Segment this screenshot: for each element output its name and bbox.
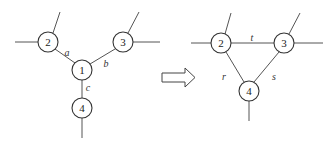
node-2-left: 2	[38, 32, 58, 52]
svg-text:3: 3	[281, 37, 287, 49]
stub-node2-up	[225, 13, 231, 34]
svg-text:4: 4	[79, 102, 85, 114]
node-1: 1	[72, 60, 92, 80]
svg-text:2: 2	[45, 36, 51, 48]
node-3-right: 3	[274, 33, 294, 53]
edge-label-a: a	[65, 47, 70, 58]
svg-text:2: 2	[218, 37, 224, 49]
edge-label-b: b	[104, 58, 109, 69]
stub-node3-up	[128, 12, 139, 33]
edge-b	[90, 49, 115, 64]
star-to-mesh-diagram: 2 1 3 4 a b c	[0, 0, 336, 144]
edge-label-s: s	[272, 71, 276, 82]
node-4-left: 4	[72, 98, 92, 118]
transform-arrow-icon	[162, 68, 195, 87]
star-network: 2 1 3 4 a b c	[15, 12, 160, 138]
stub-node2-up	[53, 12, 60, 33]
edge-label-t: t	[251, 32, 254, 43]
node-4-right: 4	[239, 81, 259, 101]
edge-label-c: c	[86, 82, 91, 93]
edge-r	[226, 52, 244, 82]
svg-text:3: 3	[120, 36, 126, 48]
edge-label-r: r	[222, 71, 226, 82]
node-2-right: 2	[211, 33, 231, 53]
mesh-network: 2 3 4 t r s	[191, 13, 323, 121]
svg-text:1: 1	[79, 64, 85, 76]
node-3-left: 3	[113, 32, 133, 52]
svg-text:4: 4	[246, 85, 252, 97]
stub-node3-up	[289, 13, 300, 34]
